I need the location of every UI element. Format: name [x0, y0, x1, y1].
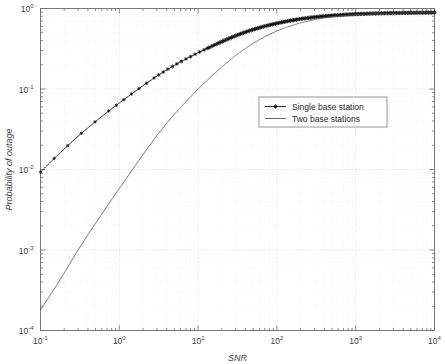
series-marker — [198, 50, 202, 54]
series-marker — [130, 92, 133, 95]
series-marker — [189, 55, 193, 59]
series-marker — [152, 76, 155, 79]
series-marker — [166, 67, 170, 71]
series-marker — [161, 70, 165, 74]
series-marker — [175, 62, 179, 66]
legend-star-icon — [273, 104, 278, 109]
series-marker — [52, 157, 55, 160]
series-marker — [180, 60, 184, 64]
log-log-line-chart: 10-110010110210310410010-110-210-310-4 S… — [0, 0, 445, 364]
series-marker — [137, 87, 140, 90]
chart-legend[interactable]: Single base stationTwo base stations — [259, 97, 387, 127]
series-marker — [115, 104, 118, 107]
series-marker — [80, 132, 83, 135]
legend-label-0: Single base station — [292, 102, 364, 112]
series-marker — [170, 65, 174, 69]
series-marker — [122, 98, 125, 101]
figure-canvas: 10-110010110210310410010-110-210-310-4 S… — [0, 0, 445, 364]
series-marker — [193, 52, 197, 56]
series-marker — [66, 144, 69, 147]
y-axis-title: Probability of outage — [4, 128, 14, 210]
series-marker — [39, 170, 42, 173]
series-marker — [157, 73, 161, 77]
series-marker — [93, 120, 96, 123]
series-marker — [184, 57, 188, 61]
legend-label-1: Two base stations — [292, 114, 360, 124]
series-marker — [145, 81, 148, 84]
x-axis-title: SNR — [228, 353, 248, 363]
series-marker — [107, 109, 110, 112]
